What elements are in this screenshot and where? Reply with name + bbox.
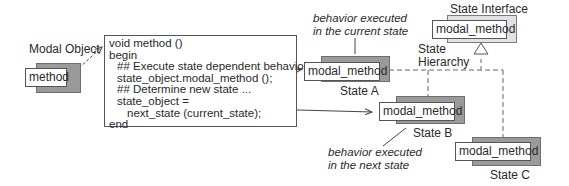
annotation-current-state: behavior executed in the current state: [313, 12, 408, 38]
code-line: void method (): [109, 38, 292, 50]
annotation-next-state: behavior executed in the next state: [328, 146, 422, 172]
inheritance-triangle-icon: [474, 43, 488, 54]
state-c-method[interactable]: modal_method: [455, 142, 531, 161]
method-code-block: void method () begin ## Execute state de…: [104, 35, 297, 127]
state-c-label: State C: [490, 168, 530, 182]
modal-object-title: Modal Object: [29, 42, 100, 56]
state-interface-title: State Interface: [450, 2, 528, 16]
code-line: state_object =: [109, 96, 292, 108]
state-a-label: State A: [340, 84, 379, 98]
state-b-method[interactable]: modal_method: [379, 102, 455, 121]
state-b-label: State B: [413, 126, 452, 140]
state-interface-method[interactable]: modal_method: [432, 20, 507, 39]
code-line: next_state (current_state);: [109, 108, 292, 120]
state-hierarchy-label: State Hierarchy: [418, 43, 469, 69]
code-line: end: [109, 119, 292, 131]
modal-object-method[interactable]: method: [25, 68, 67, 87]
state-a-method[interactable]: modal_method: [304, 62, 380, 81]
